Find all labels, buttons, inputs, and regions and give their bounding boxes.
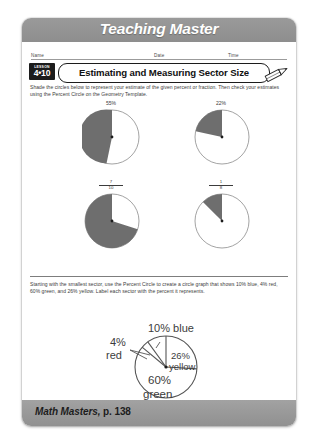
estimate-circle-3-graphic (82, 191, 142, 253)
answer-label-yellow-line2: yellow (169, 361, 196, 372)
answer-label-yellow-line1: 26% (171, 350, 191, 361)
footer-source: Math Masters, p. 138 (35, 406, 131, 417)
answer-circle-graph: 10% blue 4% red 26% yellow 60% green (70, 314, 250, 406)
pencil-icon (262, 61, 292, 85)
answer-label-blue: 10% blue (148, 322, 194, 334)
instruction-text-top: Shade the circles below to represent you… (30, 84, 288, 99)
estimate-circle-2-label: 22% (191, 100, 251, 106)
page-footer: Math Masters, p. 138 (22, 400, 296, 426)
footer-source-title: Math Masters, (35, 406, 100, 417)
estimate-circle-4-label: 1 8 (209, 180, 233, 191)
name-label: Name (31, 53, 44, 58)
answer-label-green-line1: 60% (148, 374, 171, 386)
estimate-circle-1-graphic (82, 107, 142, 169)
section-divider (30, 276, 288, 277)
name-date-time-row: Name Date Time (31, 46, 287, 60)
estimate-circle-3-label: 7 10 (99, 180, 123, 191)
lesson-title: Estimating and Measuring Sector Size (59, 67, 269, 78)
footer-page-number: p. 138 (100, 406, 130, 417)
estimate-circle-1-label: 55% (81, 100, 141, 106)
lesson-badge: LESSON 4•10 (29, 63, 55, 80)
lesson-badge-number: 4•10 (29, 69, 55, 78)
page-banner: Teaching Master (22, 18, 296, 42)
time-label: Time (228, 53, 239, 58)
answer-label-red-line2: red (106, 349, 122, 361)
estimate-circle-2-graphic (192, 107, 252, 169)
answer-label-green-line2: green (143, 388, 172, 400)
page-title: Teaching Master (22, 20, 296, 38)
date-label: Date (154, 53, 165, 58)
worksheet-page: Teaching Master Name Date Time LESSON 4•… (22, 18, 296, 426)
lesson-title-pill: Estimating and Measuring Sector Size (58, 63, 270, 83)
estimate-circle-4-graphic (192, 191, 252, 253)
answer-label-red-line1: 4% (110, 336, 126, 348)
instruction-text-bottom: Starting with the smallest sector, use t… (30, 281, 280, 296)
